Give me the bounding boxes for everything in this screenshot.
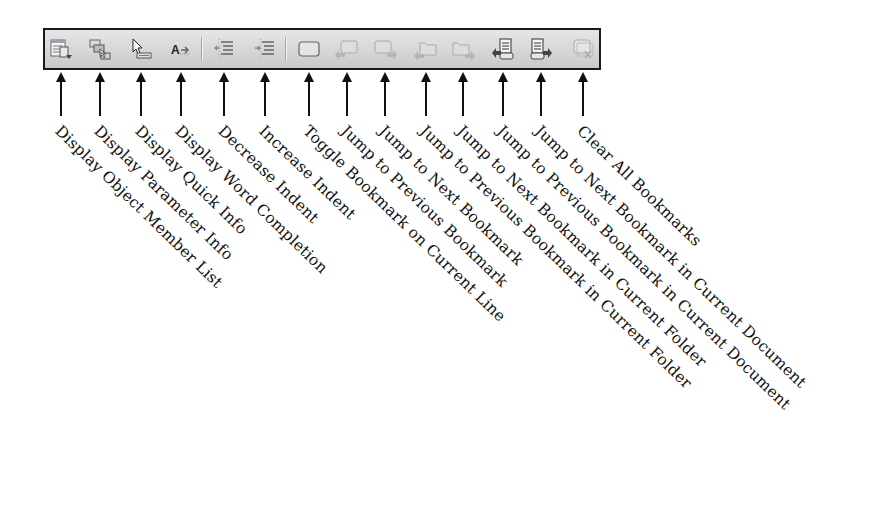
next-bookmark-in-document-button[interactable] [528, 36, 554, 62]
previous-bookmark-in-folder-button[interactable] [413, 36, 439, 62]
next-bookmark-in-folder-button[interactable] [450, 36, 476, 62]
toggle-bookmark-button[interactable] [296, 36, 322, 62]
next-bookmark-folder-icon [451, 37, 475, 61]
toolbar-separator [285, 37, 286, 61]
toolbar-separator [201, 37, 202, 61]
callout-arrow [540, 72, 542, 116]
previous-bookmark-document-icon [491, 37, 515, 61]
callout-arrow [223, 72, 225, 116]
quick-info-icon [129, 37, 153, 61]
callout-arrow [180, 72, 182, 116]
decrease-indent-icon [212, 37, 236, 61]
previous-bookmark-in-document-button[interactable] [490, 36, 516, 62]
callout-arrow [264, 72, 266, 116]
callout-arrow [308, 72, 310, 116]
callout-label: Jump to Previous Bookmark in Current Fol… [416, 122, 695, 392]
quick-info-button[interactable] [128, 36, 154, 62]
clear-all-bookmarks-button[interactable] [570, 36, 596, 62]
parameter-info-button[interactable] [87, 36, 113, 62]
callout-arrow [140, 72, 142, 116]
clear-bookmarks-icon [571, 37, 595, 61]
increase-indent-button[interactable] [252, 36, 278, 62]
callout-arrow [462, 72, 464, 116]
next-bookmark-button[interactable] [372, 36, 398, 62]
text-editor-toolbar: A [43, 28, 601, 70]
callout-arrow [60, 72, 62, 116]
word-completion-icon: A [169, 37, 193, 61]
parameter-info-icon [88, 37, 112, 61]
next-bookmark-document-icon [529, 37, 553, 61]
callout-label: Jump to Previous Bookmark in Current Doc… [493, 122, 794, 413]
callout-arrow [346, 72, 348, 116]
next-bookmark-icon [373, 37, 397, 61]
previous-bookmark-button[interactable] [334, 36, 360, 62]
previous-bookmark-folder-icon [414, 37, 438, 61]
callout-arrow [502, 72, 504, 116]
callout-label: Jump to Next Bookmark in Current Documen… [531, 122, 809, 392]
previous-bookmark-icon [335, 37, 359, 61]
object-member-list-button[interactable] [48, 36, 74, 62]
decrease-indent-button[interactable] [211, 36, 237, 62]
callout-arrow [384, 72, 386, 116]
callout-arrow [99, 72, 101, 116]
callout-arrow [582, 72, 584, 116]
svg-text:A: A [171, 43, 180, 57]
word-completion-button[interactable]: A [168, 36, 194, 62]
callout-arrow [425, 72, 427, 116]
increase-indent-icon [253, 37, 277, 61]
object-member-list-icon [49, 37, 73, 61]
toggle-bookmark-icon [297, 37, 321, 61]
